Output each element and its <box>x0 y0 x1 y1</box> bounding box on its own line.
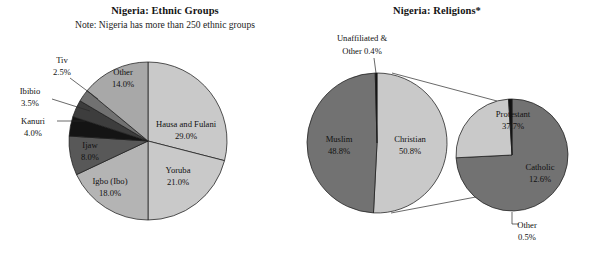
slice-value-christian: 50.8% <box>399 146 421 156</box>
slice-value-kanuri: 4.0% <box>24 128 42 138</box>
slice-label-ibibio: Ibibio <box>20 86 41 96</box>
slice-value-ibibio: 3.5% <box>21 98 39 108</box>
slice-label-kanuri: Kanuri <box>21 116 45 126</box>
slice-label-muslim: Muslim <box>326 134 353 144</box>
chart-title-ethnic-groups: Nigeria: Ethnic Groups <box>111 5 219 16</box>
slice-label-hausa-and-fulani: Hausa and Fulani <box>156 119 217 129</box>
slice-value-other: 14.0% <box>112 79 134 89</box>
slice-value-tiv: 2.5% <box>53 67 71 77</box>
slice-value-catholic: 12.6% <box>529 174 551 184</box>
slice-label-christian: Christian <box>394 134 426 144</box>
slice-label-yoruba: Yoruba <box>166 165 191 175</box>
slice-value-hausa-and-fulani: 29.0% <box>175 131 197 141</box>
chart-title-religions: Nigeria: Religions* <box>393 5 481 16</box>
slice-label-ijaw: Ijaw <box>82 140 98 150</box>
slice-value-protestant: 37.7% <box>502 121 524 131</box>
pie-chart-figure: Nigeria: Ethnic Groups Note: Nigeria has… <box>0 0 593 260</box>
slice-value-yoruba: 21.0% <box>167 177 189 187</box>
slice-value-other: 0.5% <box>518 232 536 242</box>
slice-value-ijaw: 8.0% <box>81 152 99 162</box>
slice-value-igbo-ibo: 18.0% <box>99 188 121 198</box>
slice-label-catholic: Catholic <box>525 162 554 172</box>
slice-label-other: Other <box>517 220 537 230</box>
slice-label-igbo-ibo: Igbo (Ibo) <box>92 176 127 186</box>
chart-subtitle-ethnic-groups: Note: Nigeria has more than 250 ethnic g… <box>75 19 255 30</box>
slice-value-muslim: 48.8% <box>328 146 350 156</box>
figure-root: Nigeria: Ethnic Groups Note: Nigeria has… <box>0 0 593 260</box>
slice-label-tiv: Tiv <box>56 55 68 65</box>
slice-label-other: Other <box>113 67 133 77</box>
slice-value-unaffiliated-other: Other 0.4% <box>342 46 382 56</box>
slice-label-unaffiliated-other: Unaffiliated & <box>337 33 388 43</box>
slice-label-protestant: Protestant <box>496 109 531 119</box>
